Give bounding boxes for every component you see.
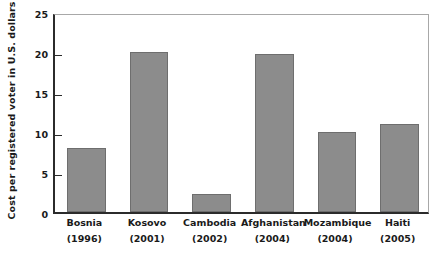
bar: [67, 148, 106, 212]
y-tick-label: 15: [35, 89, 48, 100]
category-year: (2005): [366, 232, 429, 246]
y-tick-mark: [55, 55, 62, 56]
category-year: (2002): [178, 232, 241, 246]
y-tick-label: 5: [41, 169, 48, 180]
category-name: Kosovo: [116, 216, 179, 230]
category-name: Mozambique: [304, 216, 367, 230]
x-category-label: Kosovo(2001): [116, 216, 179, 246]
category-name: Bosnia: [53, 216, 116, 230]
x-axis-category-labels: Bosnia(1996)Kosovo(2001)Cambodia(2002)Af…: [53, 216, 429, 262]
category-year: (2004): [304, 232, 367, 246]
y-tick-mark: [55, 135, 62, 136]
bar: [380, 124, 419, 212]
y-axis-tick-labels: 0510152025: [22, 0, 52, 220]
bar: [192, 194, 231, 212]
x-category-label: Bosnia(1996): [53, 216, 116, 246]
category-year: (2004): [241, 232, 304, 246]
bar-chart-figure: Cost per registered voter in U.S. dollar…: [0, 0, 435, 262]
category-name: Afghanistan: [241, 216, 304, 230]
y-tick-label: 0: [41, 209, 48, 220]
x-category-label: Haiti(2005): [366, 216, 429, 246]
plot-inner: [55, 15, 428, 212]
category-year: (1996): [53, 232, 116, 246]
category-year: (2001): [116, 232, 179, 246]
category-name: Haiti: [366, 216, 429, 230]
y-tick-label: 25: [35, 9, 48, 20]
bar: [130, 52, 169, 212]
y-axis-title: Cost per registered voter in U.S. dollar…: [0, 0, 22, 220]
x-category-label: Mozambique(2004): [304, 216, 367, 246]
category-name: Cambodia: [178, 216, 241, 230]
plot-area: [53, 14, 429, 214]
x-category-label: Afghanistan(2004): [241, 216, 304, 246]
y-tick-mark: [55, 175, 62, 176]
y-tick-label: 20: [35, 49, 48, 60]
y-axis-title-text: Cost per registered voter in U.S. dollar…: [6, 1, 17, 219]
y-tick-mark: [55, 95, 62, 96]
bar: [255, 54, 294, 212]
x-category-label: Cambodia(2002): [178, 216, 241, 246]
y-tick-label: 10: [35, 129, 48, 140]
bar: [318, 132, 357, 212]
